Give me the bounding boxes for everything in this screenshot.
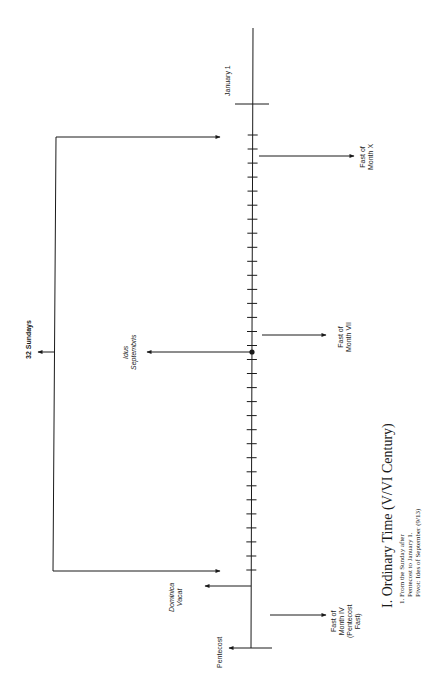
diagram-title: I. Ordinary Time (V/VI Century) bbox=[380, 423, 396, 608]
dominica-line1: Dominica bbox=[168, 583, 176, 612]
sundays-label: 32 Sundays bbox=[25, 320, 33, 359]
idus-pivot-dot bbox=[249, 349, 254, 354]
fast-iv-line1: Fast of bbox=[330, 605, 338, 638]
fast-month-vii-label: Fast of Month VII bbox=[337, 322, 353, 352]
fast-x-line1: Fast of bbox=[359, 144, 367, 170]
dominica-line2: Vacat bbox=[176, 583, 184, 612]
bracket-vertical bbox=[53, 137, 56, 571]
fast-iv-line2: Month IV bbox=[338, 605, 346, 638]
timeline-diagram bbox=[0, 0, 445, 673]
fast-iv-line3: (Pentecost bbox=[346, 605, 354, 638]
fast-x-line2: Month X bbox=[367, 144, 375, 170]
note-line-2: Pentecost to January 1. bbox=[406, 509, 414, 604]
idus-line1: Idus bbox=[122, 335, 130, 370]
dominica-vacat-label: Dominica Vacat bbox=[168, 583, 184, 612]
fast-vii-line1: Fast of bbox=[337, 322, 345, 352]
fast-vii-line2: Month VII bbox=[345, 322, 353, 352]
pentecost-label: Pentecost bbox=[216, 637, 224, 668]
note-line-1: 1. From the Sunday after bbox=[398, 509, 406, 604]
timeline-axis bbox=[251, 28, 253, 648]
fast-iv-line4: Fast) bbox=[354, 605, 362, 638]
idus-septembris-label: Idus Septembris bbox=[122, 335, 138, 370]
january-1-label: January 1 bbox=[224, 65, 232, 96]
diagram-notes: 1. From the Sunday after Pentecost to Ja… bbox=[398, 509, 422, 604]
fast-month-iv-label: Fast of Month IV (Pentecost Fast) bbox=[330, 605, 362, 638]
note-line-3: Pivot: Ides of September (9/13) bbox=[414, 509, 422, 604]
fast-month-x-label: Fast of Month X bbox=[359, 144, 375, 170]
idus-line2: Septembris bbox=[130, 335, 138, 370]
